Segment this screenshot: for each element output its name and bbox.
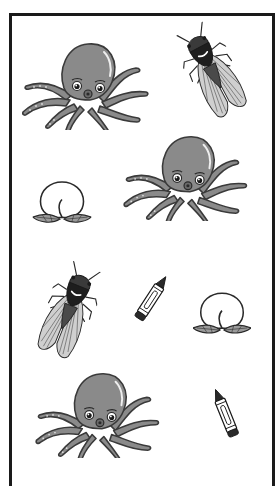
peach-icon — [32, 180, 92, 224]
octopus-icon — [20, 40, 150, 130]
peach-icon — [193, 290, 251, 336]
octopus-icon — [33, 370, 161, 458]
octopus-picture: octopus — [120, 133, 250, 221]
octopus-icon — [120, 133, 250, 221]
peach-picture: peach — [32, 180, 92, 224]
octopus-picture: octopus — [33, 370, 161, 458]
octopus-picture: octopus — [20, 40, 150, 130]
peach-picture: peach — [193, 290, 251, 336]
